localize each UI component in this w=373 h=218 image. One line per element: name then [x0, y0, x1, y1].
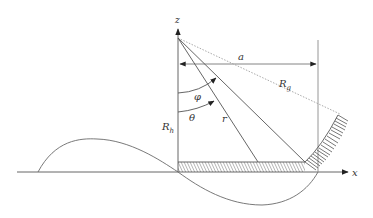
geometry-diagram: x z a Rg r φ θ Rh	[0, 0, 373, 218]
label-Rh-sub: h	[170, 127, 175, 135]
hatched-wall	[305, 115, 348, 170]
label-phi: φ	[194, 91, 201, 102]
angle-phi: φ	[178, 78, 216, 102]
svg-text:Rh: Rh	[161, 121, 174, 135]
ray-r: r	[178, 38, 258, 162]
label-theta: θ	[189, 112, 195, 123]
label-a: a	[238, 51, 244, 62]
svg-text:Rg: Rg	[278, 78, 292, 92]
x-axis-label: x	[352, 167, 358, 178]
label-Rg-sub: g	[287, 84, 292, 92]
hatched-floor	[178, 162, 305, 172]
angle-theta: θ	[178, 101, 214, 123]
dimension-a: a	[180, 51, 316, 64]
z-axis-label: z	[174, 15, 180, 25]
